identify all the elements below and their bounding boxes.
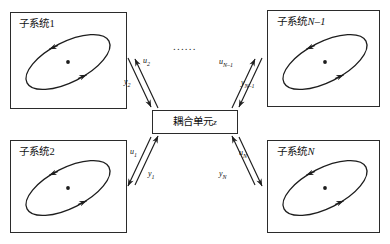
subsystem-label-1: 子系统1: [19, 19, 55, 30]
signal-label-u2-subscript: 2: [147, 61, 150, 67]
coupling-unit-label: 耦合单元z: [173, 117, 217, 128]
signal-label-u2: u2: [143, 57, 150, 67]
signal-arrow-un: [239, 137, 262, 186]
signal-label-y2: y2: [124, 78, 131, 88]
signal-label-y2-subscript: 2: [128, 82, 131, 88]
signal-label-u1-subscript: 1: [134, 152, 137, 158]
subsystem-label-n-text: 子系统: [277, 146, 308, 157]
subsystem-label-2-index: 2: [50, 146, 55, 157]
signal-label-yn-1-subscript: N–1: [245, 83, 255, 89]
signal-label-u1: u1: [130, 148, 137, 158]
coupling-unit-label-text: 耦合单元: [173, 116, 213, 127]
signal-label-un-1: uN–1: [219, 58, 233, 68]
subsystem-label-2: 子系统2: [19, 147, 55, 158]
signal-arrow-yn: [232, 136, 255, 185]
coupled-subsystems-diagram: 子系统1 子系统N–1 子系统2 子系统N ...... 耦合单元z u2 y2…: [0, 0, 390, 244]
subsystem-label-2-text: 子系统: [19, 146, 50, 157]
subsystem-label-n-minus-1-text: 子系统: [277, 16, 308, 27]
coupling-unit-box: 耦合单元z: [152, 110, 238, 134]
subsystem-label-1-index: 1: [50, 18, 55, 29]
signal-label-yn-subscript: N: [223, 174, 227, 180]
coupling-unit-label-var: z: [213, 117, 217, 127]
subsystem-label-n-minus-1: 子系统N–1: [277, 17, 326, 28]
signal-label-un-subscript: N: [243, 153, 247, 159]
signal-label-y1: y1: [148, 170, 155, 180]
subsystem-label-1-text: 子系统: [19, 18, 50, 29]
subsystem-label-n-index: N: [308, 146, 315, 157]
signal-label-un-1-subscript: N–1: [223, 62, 233, 68]
signal-label-yn-1: yN–1: [241, 79, 255, 89]
subsystem-label-n-minus-1-index: N–1: [308, 16, 326, 27]
signal-label-yn: yN: [219, 170, 227, 180]
signal-label-un: uN: [239, 149, 247, 159]
signal-label-y1-subscript: 1: [152, 174, 155, 180]
ellipsis-indicator: ......: [173, 41, 197, 52]
subsystem-label-n: 子系统N: [277, 147, 315, 158]
